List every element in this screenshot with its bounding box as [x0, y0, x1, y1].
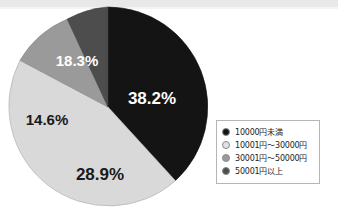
legend-item-50001-ijou[interactable]: 50001円以上: [222, 164, 315, 177]
legend-marker-icon: [222, 154, 230, 162]
legend-item-label: 30001円～50000円: [235, 152, 307, 163]
legend-item-10000-miman[interactable]: 10000円未満: [222, 125, 315, 138]
legend-item-10001-30000[interactable]: 10001円～30000円: [222, 138, 315, 151]
legend-item-label: 50001円以上: [235, 165, 283, 176]
legend-marker-icon: [222, 167, 230, 175]
legend-item-label: 10001円～30000円: [235, 139, 307, 150]
legend-marker-icon: [222, 128, 230, 136]
legend-item-label: 10000円未満: [235, 126, 283, 137]
legend-marker-icon: [222, 141, 230, 149]
pie-chart-figure: 38.2% 28.9% 14.6% 18.3% 10000円未満 10001円～…: [0, 0, 338, 217]
chart-legend: 10000円未満 10001円～30000円 30001円～50000円 500…: [216, 120, 320, 184]
legend-item-30001-50000[interactable]: 30001円～50000円: [222, 151, 315, 164]
pie-chart-svg: 38.2% 28.9% 14.6% 18.3%: [4, 6, 214, 212]
